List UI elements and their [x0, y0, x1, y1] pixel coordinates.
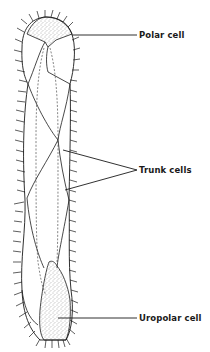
trunk-leader-line-upper	[63, 150, 137, 170]
organism-diagram	[0, 0, 210, 352]
uropolar-cell	[40, 261, 71, 340]
cilia-bottom	[45, 340, 65, 348]
trunk-cells-label: Trunk cells	[139, 165, 192, 175]
axial-cell-outline	[36, 48, 58, 295]
polar-cell	[27, 17, 72, 47]
uropolar-cell-label: Uropolar cell	[139, 313, 202, 323]
trunk-leader-line-lower	[65, 170, 137, 190]
polar-cell-label: Polar cell	[139, 30, 185, 40]
